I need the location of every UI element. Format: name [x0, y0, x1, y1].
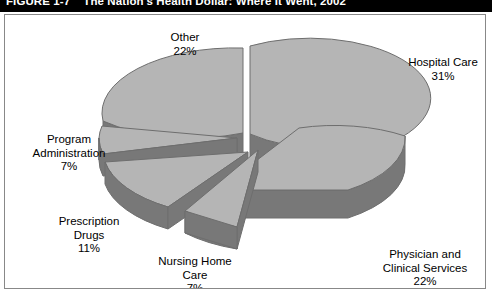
pie-label-other: Other 22%	[141, 31, 229, 58]
pie-label-physician-clinical-services: Physician and Clinical Services 22%	[363, 248, 486, 289]
pie-label-hospital-care: Hospital Care 31%	[393, 56, 486, 83]
figure-number: FIGURE 1-7	[6, 0, 70, 7]
pie-label-nursing-line1: Nursing Home	[158, 255, 232, 267]
pie-label-program-line2: Administration	[13, 147, 125, 161]
pie-label-hospital-care-percent: 31%	[393, 70, 486, 84]
pie-label-other-percent: 22%	[141, 45, 229, 59]
pie-label-nursing-line2: Care	[139, 269, 251, 283]
pie-label-prescription-drugs: Prescription Drugs 11%	[37, 215, 141, 256]
pie-label-nursing-home-care: Nursing Home Care 7%	[139, 255, 251, 289]
pie-label-rx-percent: 11%	[37, 242, 141, 256]
pie-label-hospital-care-name: Hospital Care	[408, 56, 478, 68]
pie-label-physician-line2: Clinical Services	[363, 262, 486, 276]
pie-label-program-line1: Program	[47, 133, 91, 145]
pie-label-other-name: Other	[171, 31, 200, 43]
pie-label-physician-percent: 22%	[363, 275, 486, 289]
pie-label-rx-line1: Prescription	[59, 215, 120, 227]
figure-caption: The Nation's Health Dollar: Where It Wen…	[83, 0, 346, 7]
chart-panel: .top { fill:#b5b5b5; stroke:#6e6e6e; str…	[4, 14, 486, 289]
pie-label-physician-line1: Physician and	[389, 248, 461, 260]
pie-label-program-percent: 7%	[13, 160, 125, 174]
pie-label-rx-line2: Drugs	[37, 229, 141, 243]
pie-label-program-administration: Program Administration 7%	[13, 133, 125, 174]
figure-title-text: FIGURE 1-7The Nation's Health Dollar: Wh…	[6, 0, 346, 7]
figure-title-bar: FIGURE 1-7The Nation's Health Dollar: Wh…	[0, 0, 492, 12]
pie-label-nursing-percent: 7%	[139, 282, 251, 289]
